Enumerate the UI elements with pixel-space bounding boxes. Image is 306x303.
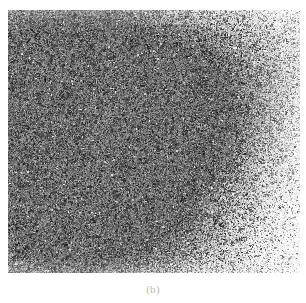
micrograph-canvas <box>8 10 300 273</box>
figure-panel: μm (b) <box>0 0 306 303</box>
micrograph-image: μm <box>8 10 300 273</box>
figure-caption-label: (b) <box>0 283 306 296</box>
